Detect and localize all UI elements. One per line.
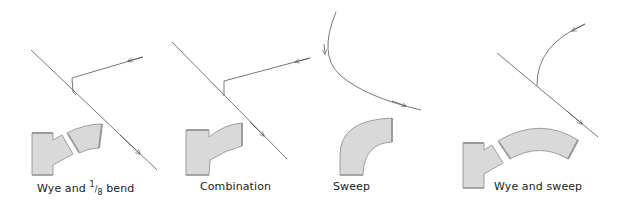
panel-sweep	[324, 12, 421, 175]
panel-wye-eighth-bend	[31, 50, 157, 175]
sweep-branch-curve	[537, 24, 585, 86]
wye-fitting	[32, 133, 73, 175]
flow-arrow-icon	[567, 111, 582, 124]
eighth-bend-fitting	[67, 124, 102, 153]
caption-wye-eighth-bend: Wye and 1/8 bend	[37, 180, 134, 197]
sweep-fitting	[498, 128, 578, 159]
main-flow-line	[497, 53, 598, 137]
flow-arrow-icon	[250, 122, 264, 136]
branch-arrow-icon	[128, 57, 143, 61]
caption-combination: Combination	[200, 180, 271, 193]
sweep-flow-curve	[328, 12, 421, 110]
branch-arrow-icon	[295, 58, 310, 62]
caption-wye-sweep: Wye and sweep	[494, 180, 582, 193]
flow-arrow-icon-1	[324, 44, 325, 54]
caption-text-end: bend	[103, 182, 135, 195]
panel-wye-sweep	[463, 24, 598, 188]
flow-arrow-icon-2	[392, 101, 406, 106]
caption-text: Wye and	[37, 182, 89, 195]
sweep-fitting	[340, 118, 392, 175]
branch-flow-line	[224, 58, 310, 96]
panel-combination	[172, 42, 310, 175]
branch-flow-line	[72, 57, 143, 95]
caption-sweep: Sweep	[333, 180, 370, 193]
drainage-fittings-diagram	[0, 0, 629, 207]
branch-arrow-icon	[572, 24, 585, 31]
flow-arrow-icon	[120, 135, 140, 154]
